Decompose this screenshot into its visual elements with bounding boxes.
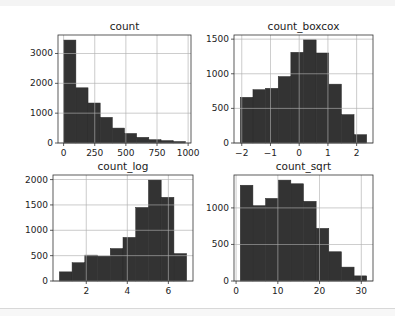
histogram-bar <box>85 255 98 281</box>
x-tick-label: 250 <box>86 148 103 158</box>
x-tick-label: 10 <box>272 286 284 296</box>
histogram-bar <box>266 88 279 143</box>
histogram-bar <box>316 53 329 143</box>
histogram-bar <box>354 276 367 281</box>
subplot-title: count <box>110 20 140 32</box>
histogram-bar <box>341 267 354 281</box>
x-tick-label: 500 <box>117 148 134 158</box>
histogram-bar <box>253 206 266 281</box>
histogram-bar <box>125 133 137 143</box>
histogram-bar <box>354 135 367 143</box>
subplot-title: count_log <box>98 160 149 173</box>
x-tick-label: 4 <box>124 286 130 296</box>
x-tick-label: 1000 <box>177 148 200 158</box>
histogram-bar <box>316 228 329 281</box>
y-tick-label: 500 <box>212 239 229 249</box>
y-tick-label: 1000 <box>206 203 229 213</box>
y-tick-label: 1000 <box>25 225 48 235</box>
y-tick-label: 2000 <box>30 78 53 88</box>
subplot-title: count_sqrt <box>276 160 331 173</box>
x-tick-label: 0 <box>233 286 239 296</box>
histogram-bar <box>64 40 76 143</box>
y-tick-label: 500 <box>212 103 229 113</box>
x-tick-label: 1 <box>325 148 331 158</box>
histogram-bar <box>100 117 112 143</box>
histogram-bar <box>329 252 342 281</box>
y-tick-label: 1500 <box>206 34 229 44</box>
x-tick-label: 750 <box>148 148 165 158</box>
histogram-bar <box>291 52 304 143</box>
histogram-bar <box>174 254 187 281</box>
y-tick-label: 1000 <box>206 69 229 79</box>
histogram-bar <box>88 103 100 143</box>
y-tick-label: 0 <box>42 276 48 286</box>
histogram-bar <box>59 272 72 281</box>
histogram-bar <box>123 237 136 281</box>
y-tick-label: 1500 <box>25 200 48 210</box>
histogram-figure: 025050075010000100020003000count −2−1012… <box>0 0 395 308</box>
subplot-count-boxcox: −2−1012050010001500count_boxcox <box>206 20 373 158</box>
histogram-bar <box>137 137 149 143</box>
histogram-bar <box>278 77 291 143</box>
histogram-bar <box>161 197 174 281</box>
y-tick-label: 2000 <box>25 175 48 185</box>
y-tick-label: 0 <box>223 276 229 286</box>
y-tick-label: 3000 <box>30 48 53 58</box>
histogram-bar <box>72 263 85 281</box>
bottom-strip <box>0 309 395 316</box>
y-tick-label: 500 <box>31 251 48 261</box>
histogram-bar <box>341 115 354 143</box>
x-tick-label: 2 <box>354 148 360 158</box>
histogram-bar <box>149 140 161 143</box>
x-tick-label: −1 <box>264 148 277 158</box>
histogram-bar <box>110 249 123 281</box>
x-tick-label: 20 <box>314 286 326 296</box>
histogram-bar <box>240 97 253 143</box>
histogram-bar <box>291 184 304 281</box>
histogram-bar <box>278 180 291 281</box>
y-tick-label: 0 <box>223 138 229 148</box>
histogram-bar <box>76 88 88 143</box>
histogram-bar <box>240 185 253 281</box>
x-tick-label: 0 <box>296 148 302 158</box>
histogram-bar <box>98 256 111 281</box>
x-tick-label: 0 <box>61 148 67 158</box>
y-tick-label: 1000 <box>30 108 53 118</box>
histogram-bar <box>329 84 342 143</box>
histogram-bar <box>304 201 317 281</box>
subplot-count-log: 2460500100015002000count_log <box>25 160 193 296</box>
histogram-bar <box>136 207 149 281</box>
x-tick-label: 2 <box>83 286 89 296</box>
histogram-bar <box>112 128 124 143</box>
subplot-title: count_boxcox <box>268 20 340 33</box>
x-tick-label: 6 <box>165 286 171 296</box>
histogram-bar <box>304 40 317 143</box>
y-tick-label: 0 <box>47 138 53 148</box>
x-tick-label: 30 <box>356 286 368 296</box>
x-tick-label: −2 <box>235 148 248 158</box>
subplot-count-sqrt: 010203005001000count_sqrt <box>206 160 373 296</box>
histogram-bar <box>266 198 279 281</box>
histogram-bar <box>253 90 266 143</box>
subplot-count: 025050075010000100020003000count <box>30 20 200 158</box>
